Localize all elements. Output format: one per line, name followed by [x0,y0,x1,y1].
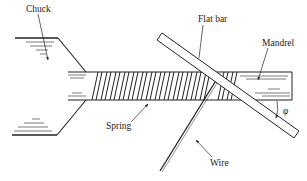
spring-winding-diagram: Chuck Flat bar Mandrel Spring Wire φ [0,0,307,181]
spring-label: Spring [106,121,132,131]
spring-leader [131,104,148,122]
angle-label: φ [283,106,288,116]
chuck-leader [38,14,48,60]
wire-leader [196,140,212,157]
chuck-label: Chuck [26,4,51,14]
flat-bar-label: Flat bar [198,14,228,24]
mandrel-label: Mandrel [262,38,295,48]
flat-bar-leader [199,25,203,58]
chuck [12,38,86,135]
mandrel-leader [258,48,268,80]
flat-bar [157,33,299,138]
wire-label: Wire [210,158,229,168]
